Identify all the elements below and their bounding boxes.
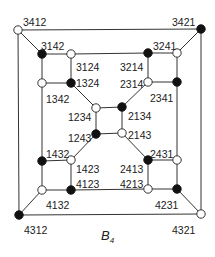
edge-4312-4132: [19, 190, 42, 215]
node-1243: [92, 130, 100, 138]
node-4213: [144, 185, 152, 193]
node-4231: [173, 185, 181, 193]
node-2314: [144, 78, 152, 86]
node-3421: [197, 25, 205, 33]
node-4123: [67, 186, 75, 194]
node-2341: [173, 78, 181, 86]
edge-3124-3214: [71, 53, 148, 54]
node-2134: [118, 103, 126, 111]
edge-4312-3412: [18, 30, 19, 215]
edge-3421-3241: [177, 29, 201, 53]
node-label-4213: 4213: [120, 178, 144, 190]
edge-4321-4231: [177, 189, 201, 214]
node-label-4123: 4123: [76, 178, 100, 190]
node-label-3412: 3412: [23, 16, 47, 28]
edge-3412-3421: [18, 29, 201, 30]
node-label-3214: 3214: [120, 61, 144, 73]
node-4321: [197, 210, 205, 218]
node-label-2143: 2143: [128, 129, 152, 141]
node-label-1432: 1432: [46, 148, 70, 160]
node-3412: [14, 26, 22, 34]
node-label-1243: 1243: [68, 132, 92, 144]
caption: B4: [101, 228, 115, 245]
node-label-4231: 4231: [155, 199, 179, 211]
node-label-2341: 2341: [150, 92, 174, 104]
node-4312: [15, 211, 23, 219]
node-label-3421: 3421: [172, 16, 196, 28]
node-label-3142: 3142: [41, 40, 65, 52]
node-label-3124: 3124: [76, 61, 100, 73]
node-label-4312: 4312: [24, 224, 48, 236]
node-1234: [92, 104, 100, 112]
node-1342: [38, 79, 46, 87]
node-2143: [118, 129, 126, 137]
node-2431: [173, 156, 181, 164]
node-label-4132: 4132: [46, 199, 70, 211]
node-label-1342: 1342: [46, 93, 70, 105]
node-3124: [67, 50, 75, 58]
node-labels: 3412342143124321314231243214324113421324…: [23, 16, 196, 236]
node-label-1234: 1234: [68, 111, 92, 123]
node-label-1423: 1423: [76, 163, 100, 175]
node-4132: [38, 186, 46, 194]
node-label-1324: 1324: [76, 77, 100, 89]
permutation-graph-b4: 3412342143124321314231243214324113421324…: [0, 0, 215, 257]
node-1432: [38, 157, 46, 165]
node-label-2134: 2134: [128, 110, 152, 122]
node-label-4321: 4321: [172, 224, 196, 236]
edge-3412-3142: [18, 30, 42, 54]
node-label-2431: 2431: [150, 148, 174, 160]
edge-4321-4312: [19, 214, 201, 215]
node-3214: [144, 49, 152, 57]
node-1324: [67, 79, 75, 87]
node-label-2413: 2413: [120, 163, 144, 175]
node-label-3241: 3241: [153, 40, 177, 52]
node-label-2314: 2314: [120, 78, 144, 90]
